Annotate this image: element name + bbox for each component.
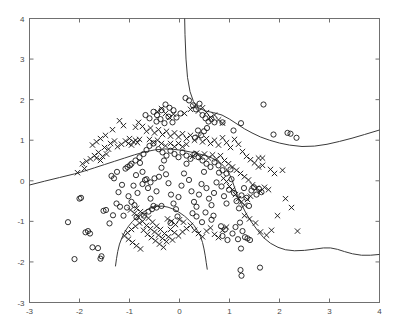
marker-circle	[110, 213, 115, 218]
marker-cross	[156, 127, 161, 132]
marker-cross	[144, 129, 149, 134]
marker-cross	[188, 133, 193, 138]
marker-circle	[208, 164, 213, 169]
marker-cross	[256, 165, 261, 170]
marker-circle	[203, 116, 208, 121]
marker-circle	[184, 161, 189, 166]
y-tick-label: 2	[20, 96, 25, 105]
marker-cross	[130, 240, 135, 245]
marker-cross	[129, 227, 134, 232]
marker-cross	[82, 166, 87, 171]
marker-circle	[126, 194, 131, 199]
marker-circle	[140, 169, 145, 174]
marker-cross	[204, 136, 209, 141]
marker-cross	[295, 229, 300, 234]
marker-cross	[160, 236, 165, 241]
marker-circle	[196, 192, 201, 197]
marker-cross	[153, 238, 158, 243]
marker-cross	[264, 233, 269, 238]
marker-cross	[188, 107, 193, 112]
marker-circle	[170, 120, 175, 125]
marker-cross	[94, 139, 99, 144]
marker-circle	[206, 196, 211, 201]
marker-cross	[208, 141, 213, 146]
marker-circle	[171, 201, 176, 206]
marker-circle	[211, 190, 216, 195]
marker-cross	[147, 137, 152, 142]
marker-cross	[275, 213, 280, 218]
marker-cross	[224, 179, 229, 184]
marker-circle	[204, 125, 209, 130]
marker-cross	[218, 153, 223, 158]
marker-cross	[117, 118, 122, 123]
marker-cross	[226, 161, 231, 166]
marker-cross	[212, 138, 217, 143]
marker-circle	[214, 180, 219, 185]
y-tick-label: 3	[20, 55, 25, 64]
marker-circle	[135, 190, 140, 195]
marker-cross	[272, 171, 277, 176]
marker-cross	[220, 135, 225, 140]
x-tick-label: -1	[126, 307, 134, 316]
marker-circle	[221, 194, 226, 199]
marker-circle	[124, 205, 129, 210]
marker-cross	[152, 230, 157, 235]
marker-cross	[200, 139, 205, 144]
y-tick-label: -1	[17, 217, 25, 226]
marker-circle	[203, 210, 208, 215]
marker-cross	[244, 154, 249, 159]
marker-circle	[154, 189, 159, 194]
marker-circle	[179, 183, 184, 188]
marker-circle	[117, 204, 122, 209]
marker-circle	[238, 267, 243, 272]
marker-circle	[158, 117, 163, 122]
marker-cross	[260, 156, 265, 161]
y-tick-label: 0	[20, 177, 25, 186]
marker-cross	[216, 118, 221, 123]
marker-cross	[192, 228, 197, 233]
marker-cross	[161, 245, 166, 250]
marker-cross	[160, 132, 165, 137]
marker-circle	[161, 158, 166, 163]
marker-circle	[294, 135, 299, 140]
marker-circle	[152, 176, 157, 181]
marker-circle	[131, 183, 136, 188]
marker-cross	[90, 143, 95, 148]
marker-cross	[140, 124, 145, 129]
marker-circle	[119, 182, 124, 187]
marker-circle	[129, 199, 134, 204]
marker-cross	[184, 226, 189, 231]
marker-circle	[176, 155, 181, 160]
marker-cross	[234, 168, 239, 173]
marker-circle	[194, 204, 199, 209]
marker-circle	[239, 273, 244, 278]
y-tick-label: -2	[17, 258, 25, 267]
x-tick-label: 0	[177, 307, 182, 316]
marker-circle	[204, 185, 209, 190]
y-tick-label: 1	[20, 136, 25, 145]
marker-cross	[248, 157, 253, 162]
marker-circle	[186, 177, 191, 182]
marker-circle	[162, 121, 167, 126]
marker-circle	[224, 171, 229, 176]
marker-circle	[231, 128, 236, 133]
upper-right-boundary	[185, 10, 383, 146]
marker-cross	[170, 238, 175, 243]
marker-circle	[194, 214, 199, 219]
marker-cross	[138, 209, 143, 214]
marker-cross	[164, 129, 169, 134]
marker-circle	[145, 185, 150, 190]
x-tick-label: -3	[26, 307, 34, 316]
marker-cross	[180, 131, 185, 136]
marker-cross	[164, 239, 169, 244]
marker-cross	[172, 230, 177, 235]
marker-circle	[209, 203, 214, 208]
marker-circle	[271, 132, 276, 137]
marker-cross	[133, 125, 138, 130]
marker-cross	[228, 145, 233, 150]
x-tick-label: 3	[327, 307, 332, 316]
x-tick-label: 2	[277, 307, 282, 316]
marker-cross	[145, 232, 150, 237]
marker-cross	[242, 213, 247, 218]
scatter-plot-figure: -3-2-101234-3-2-101234	[0, 0, 398, 330]
